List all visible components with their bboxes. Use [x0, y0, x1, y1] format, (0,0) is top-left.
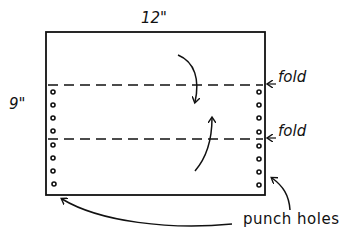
height-dimension-label: 9": [9, 95, 25, 113]
fold-label-bottom: fold: [278, 122, 306, 140]
fold-down-arrow-icon: [178, 55, 197, 102]
width-dimension-label: 12": [141, 9, 167, 27]
punch-holes-pointer-left-icon: [62, 199, 232, 226]
left-punch-holes: [51, 90, 56, 186]
fold-label-top: fold: [278, 68, 306, 86]
punch-holes-label: punch holes: [243, 210, 339, 228]
punch-holes-pointer-right-icon: [272, 178, 290, 210]
fold-up-arrow-icon: [195, 118, 212, 171]
diagram-canvas: 12" 9" fold fold punch holes: [0, 0, 346, 245]
paper-sheet: [46, 32, 265, 195]
